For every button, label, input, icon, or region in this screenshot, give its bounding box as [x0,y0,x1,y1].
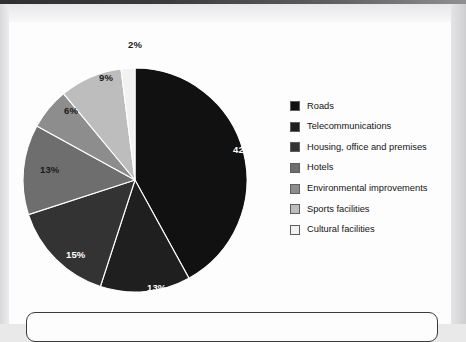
legend-swatch-icon [290,122,300,132]
pie-slice-value-label: 15% [66,249,85,260]
legend-item-label: Environmental improvements [307,184,427,193]
legend-item-cultural-facilities[interactable]: Cultural facilities [290,220,455,241]
legend-swatch-icon [290,225,300,235]
legend-swatch-icon [290,184,300,194]
legend-item-label: Telecommunications [307,122,391,131]
scanned-page-left-margin [0,4,9,324]
legend-item-label: Sports facilities [307,205,370,214]
scanned-page-top-haze [9,4,451,22]
pie-slice-value-label: 13% [147,282,166,293]
pie-slice-value-label: 2% [128,39,142,50]
legend-item-sports-facilities[interactable]: Sports facilities [290,199,455,220]
legend-item-label: Housing, office and premises [307,143,427,152]
legend-item-environmental-improvements[interactable]: Environmental improvements [290,178,455,199]
pie-slice-value-label: 13% [40,164,59,175]
pie-slice-group [23,68,247,292]
legend-item-roads[interactable]: Roads [290,96,455,117]
legend-item-label: Roads [307,102,334,111]
pie-chart: 42%13%15%13%6%9%2% [9,22,279,312]
chart-legend: RoadsTelecommunicationsHousing, office a… [290,96,455,240]
pie-slice-value-label: 6% [64,105,78,116]
legend-item-housing-office-and-premises[interactable]: Housing, office and premises [290,137,455,158]
pie-slice-value-label: 9% [99,72,113,83]
legend-item-label: Cultural facilities [307,225,375,234]
legend-item-hotels[interactable]: Hotels [290,158,455,179]
legend-swatch-icon [290,204,300,214]
legend-item-telecommunications[interactable]: Telecommunications [290,117,455,138]
note-box [26,312,438,342]
pie-slice-value-label: 42% [233,144,252,155]
legend-swatch-icon [290,142,300,152]
legend-swatch-icon [290,101,300,111]
legend-item-label: Hotels [307,163,333,172]
legend-swatch-icon [290,163,300,173]
